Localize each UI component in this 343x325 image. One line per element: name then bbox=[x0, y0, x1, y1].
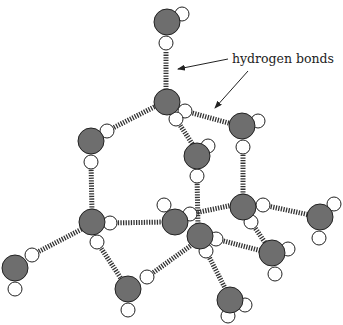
oxygen-atom bbox=[184, 143, 210, 169]
hydrogen-bond bbox=[107, 104, 160, 131]
oxygen-atom bbox=[187, 223, 213, 249]
hydrogen-bond bbox=[110, 222, 166, 223]
hydrogen-atom bbox=[84, 155, 98, 169]
hydrogen-atom bbox=[190, 169, 204, 183]
pointer-arrow bbox=[215, 71, 248, 108]
oxygen-atom bbox=[217, 287, 243, 313]
hydrogen-bond bbox=[91, 162, 92, 212]
oxygen-atom bbox=[78, 128, 104, 154]
hydrogen-atom bbox=[90, 235, 104, 249]
hydrogen-atom bbox=[157, 198, 171, 212]
oxygen-atom bbox=[229, 113, 255, 139]
oxygen-atom bbox=[154, 89, 180, 115]
oxygen-atom bbox=[154, 9, 180, 35]
hydrogen-atom bbox=[236, 140, 250, 154]
hydrogen-atom bbox=[121, 303, 135, 317]
molecule-canvas bbox=[0, 0, 343, 325]
hydrogen-atom bbox=[256, 198, 270, 212]
oxygen-atom bbox=[115, 276, 141, 302]
hydrogen-atom bbox=[25, 248, 39, 262]
oxygen-atom bbox=[162, 209, 188, 235]
oxygen-atom bbox=[230, 194, 256, 220]
hydrogen-bond bbox=[147, 244, 193, 277]
hydrogen-bond bbox=[197, 176, 198, 226]
hydrogen-bond-diagram: hydrogen bonds bbox=[0, 0, 343, 325]
pointer-arrow bbox=[178, 59, 228, 69]
hydrogen-atom bbox=[159, 36, 173, 50]
hydrogen-atom bbox=[268, 267, 282, 281]
hydrogen-atom bbox=[8, 282, 22, 296]
annotation-arrows bbox=[178, 59, 248, 108]
oxygen-atom bbox=[307, 204, 333, 230]
oxygen-atom bbox=[259, 240, 285, 266]
hydrogen-bonds-label: hydrogen bonds bbox=[232, 51, 334, 66]
oxygen-atom bbox=[2, 255, 28, 281]
hydrogen-bond bbox=[32, 228, 84, 255]
oxygen-atom bbox=[79, 209, 105, 235]
hydrogen-atom bbox=[312, 231, 326, 245]
hydrogen-atom bbox=[140, 270, 154, 284]
